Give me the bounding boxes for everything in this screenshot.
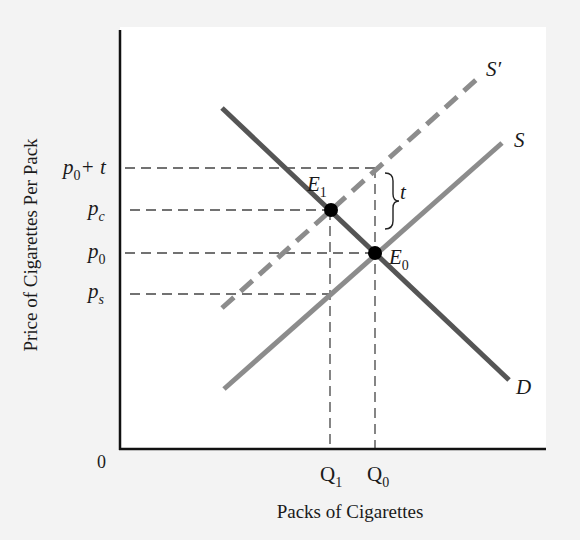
label-s-prime: S′ [486, 57, 502, 81]
tax-incidence-diagram: S′ S D t E1 E0 p0+ t pc p0 ps Q1 Q0 0 Pa… [0, 0, 580, 540]
origin-label: 0 [97, 452, 106, 472]
x-axis-title: Packs of Cigarettes [277, 501, 424, 522]
x-tick-q1: Q1 [320, 462, 342, 490]
y-axis-title: Price of Cigarettes Per Pack [20, 138, 41, 352]
y-tick-pc: pc [86, 196, 106, 224]
label-s: S [514, 128, 525, 152]
y-tick-ps: ps [86, 279, 105, 307]
equilibrium-point-e1 [324, 203, 338, 217]
y-tick-p0: p0 [86, 239, 106, 267]
x-tick-q0: Q0 [367, 462, 389, 490]
y-tick-p0-plus-t: p0+ t [61, 155, 107, 183]
equilibrium-point-e0 [368, 246, 382, 260]
plot-area [120, 27, 546, 449]
label-d: D [515, 375, 531, 399]
